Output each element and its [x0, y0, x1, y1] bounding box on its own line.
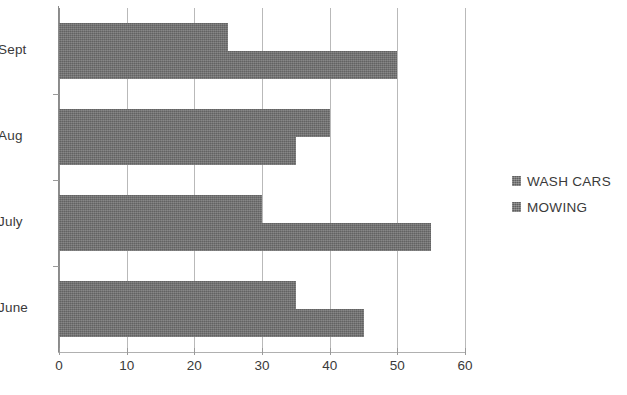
bar-group [59, 195, 465, 251]
value-tick-mark-20 [194, 348, 195, 355]
bar[interactable] [59, 109, 330, 137]
value-tick-mark-0 [59, 348, 60, 355]
value-tick-label-0: 0 [55, 358, 63, 373]
value-tick-mark-60 [465, 348, 466, 355]
value-tick-mark-10 [127, 348, 128, 355]
value-tick-mark-30 [262, 348, 263, 355]
value-axis-ticks: 0102030405060 [59, 356, 465, 380]
bar[interactable] [59, 195, 262, 223]
value-tick-label-40: 40 [322, 358, 337, 373]
value-tick-mark-40 [330, 348, 331, 355]
value-tick-label-20: 20 [187, 358, 202, 373]
category-tick [53, 180, 59, 181]
bar[interactable] [59, 223, 431, 251]
legend-swatch-icon [512, 176, 521, 186]
category-label-aug: Aug [0, 128, 46, 143]
legend-swatch-icon [512, 202, 521, 212]
value-tick-label-30: 30 [254, 358, 269, 373]
bar[interactable] [59, 309, 364, 337]
bar[interactable] [59, 281, 296, 309]
legend-label: WASH CARS [527, 174, 611, 189]
chart-legend: WASH CARSMOWING [512, 168, 624, 220]
value-tick-label-10: 10 [119, 358, 134, 373]
legend-label: MOWING [527, 200, 587, 215]
category-label-sept: Sept [0, 42, 46, 57]
category-tick [53, 94, 59, 95]
bar[interactable] [59, 51, 397, 79]
category-label-july: July [0, 214, 46, 229]
value-tick-label-60: 60 [457, 358, 472, 373]
bar-chart: SeptAugJulyJune 0102030405060 WASH CARSM… [0, 0, 627, 395]
bar-group [59, 109, 465, 165]
bar-group [59, 281, 465, 337]
category-tick [53, 266, 59, 267]
bar[interactable] [59, 23, 228, 51]
bar-group [59, 23, 465, 79]
legend-item[interactable]: WASH CARS [512, 168, 624, 194]
legend-item[interactable]: MOWING [512, 194, 624, 220]
value-tick-label-50: 50 [390, 358, 405, 373]
bar[interactable] [59, 137, 296, 165]
category-axis-labels: SeptAugJulyJune [0, 8, 54, 352]
category-label-june: June [0, 300, 46, 315]
gridline-60 [465, 8, 466, 352]
value-tick-mark-50 [397, 348, 398, 355]
plot-area [59, 8, 465, 352]
